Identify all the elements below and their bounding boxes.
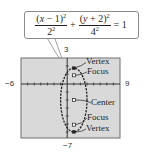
plus-sign: + xyxy=(70,20,76,30)
equation-callout: (x − 1)2 22 + (y + 2)2 42 = 1 xyxy=(24,11,139,39)
ymax-label: 3 xyxy=(64,46,68,54)
xmax-label: 9 xyxy=(125,80,129,88)
xmin-label: −6 xyxy=(5,80,14,88)
ellipse-graph-figure: (x − 1)2 22 + (y + 2)2 42 = 1 3 −7 −6 9 … xyxy=(0,0,160,152)
center-point xyxy=(72,99,75,102)
y-term-numerator: (y + 2)2 xyxy=(79,14,111,26)
equals-one: = 1 xyxy=(114,20,127,30)
x-denominator-exponent: 2 xyxy=(52,26,55,32)
bottom-vertex-point xyxy=(72,130,75,133)
x-shift: − 1) xyxy=(44,13,63,24)
fraction-y-term: (y + 2)2 42 xyxy=(79,14,111,37)
y-term-denominator: 42 xyxy=(91,26,99,37)
center-label: Center xyxy=(91,98,115,107)
y-denominator-exponent: 2 xyxy=(96,26,99,32)
top-focus-point xyxy=(72,74,75,77)
y-shift: + 2) xyxy=(88,13,107,24)
x-exponent: 2 xyxy=(63,13,66,19)
top-vertex-point xyxy=(72,66,75,69)
x-term-numerator: (x − 1)2 xyxy=(35,14,67,26)
y-exponent: 2 xyxy=(107,13,110,19)
bottom-vertex-label: Vertex xyxy=(86,124,110,133)
fraction-x-term: (x − 1)2 22 xyxy=(35,14,67,37)
x-term-denominator: 22 xyxy=(47,26,55,37)
ymin-label: −7 xyxy=(63,142,72,150)
bottom-focus-label: Focus xyxy=(87,113,109,122)
bottom-focus-point xyxy=(72,123,75,126)
top-focus-label: Focus xyxy=(87,67,109,76)
top-vertex-label: Vertex xyxy=(86,57,110,66)
